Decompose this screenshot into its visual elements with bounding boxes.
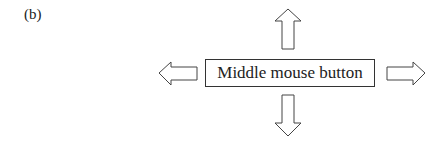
right-arrow-icon [387,62,425,85]
left-arrow-icon [159,62,197,85]
up-arrow-icon [275,9,301,49]
down-arrow-icon [275,95,301,136]
middle-mouse-button-box: Middle mouse button [205,59,375,87]
